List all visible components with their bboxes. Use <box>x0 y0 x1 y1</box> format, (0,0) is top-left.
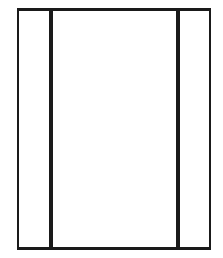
right-panel <box>180 11 209 247</box>
center-panel <box>53 11 176 247</box>
left-panel <box>19 11 49 247</box>
